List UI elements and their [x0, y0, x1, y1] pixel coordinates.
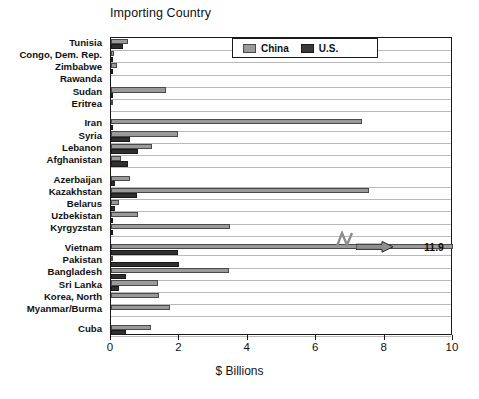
- legend-item-us: U.S.: [301, 43, 338, 54]
- bar-vietnam-us: [111, 250, 178, 255]
- axis-break-icon: [336, 231, 354, 247]
- bar-syria-china: [111, 131, 178, 136]
- y-label-vietnam: Vietnam: [65, 243, 102, 253]
- bar-afghanistan-china: [111, 156, 121, 161]
- legend-item-china: China: [243, 43, 289, 54]
- y-label-myanmar-burma: Myanmar/Burma: [27, 304, 102, 314]
- bar-sudan-china: [111, 87, 166, 92]
- y-label-bangladesh: Bangladesh: [48, 267, 102, 277]
- gridline: [111, 280, 451, 281]
- y-label-lebanon: Lebanon: [62, 143, 102, 153]
- plot-area: [110, 37, 452, 335]
- bar-uzbekistan-us: [111, 218, 113, 223]
- chart-root: Importing Country TunisiaCongo, Dem. Rep…: [0, 0, 479, 399]
- legend: ChinaU.S.: [232, 38, 378, 58]
- legend-swatch-china: [243, 44, 256, 53]
- x-tick-mark: [110, 335, 111, 340]
- bar-zimbabwe-china: [111, 63, 117, 68]
- x-tick-label: 0: [107, 341, 113, 353]
- bar-sudan-us: [111, 93, 113, 98]
- bar-kyrgyzstan-us: [111, 230, 113, 235]
- x-tick-label: 6: [312, 341, 318, 353]
- gridlines: [111, 38, 451, 334]
- bar-belarus-china: [111, 200, 119, 205]
- y-label-uzbekistan: Uzbekistan: [51, 211, 102, 221]
- gridline: [111, 236, 451, 237]
- bar-iran-us: [111, 125, 113, 130]
- bar-azerbaijan-china: [111, 176, 130, 181]
- bar-afghanistan-us: [111, 161, 128, 166]
- x-tick-label: 4: [244, 341, 250, 353]
- bar-lebanon-china: [111, 144, 152, 149]
- bar-eritrea-china: [111, 100, 113, 105]
- bar-korea-north-china: [111, 293, 159, 298]
- y-label-kazakhstan: Kazakhstan: [49, 187, 102, 197]
- gridline: [111, 75, 451, 76]
- gridline: [111, 111, 451, 112]
- bar-myanmar-burma-china: [111, 305, 170, 310]
- x-tick-mark: [315, 335, 316, 340]
- gridline: [111, 199, 451, 200]
- bar-syria-us: [111, 137, 130, 142]
- bar-kazakhstan-us: [111, 193, 137, 198]
- bar-tunisia-us: [111, 44, 123, 49]
- bar-congo-dem-rep--us: [111, 57, 113, 62]
- y-label-sudan: Sudan: [73, 87, 102, 97]
- gridline: [111, 211, 451, 212]
- legend-label-china: China: [261, 43, 289, 54]
- x-axis-ticks: 0246810: [0, 335, 479, 355]
- y-label-belarus: Belarus: [67, 199, 102, 209]
- chart-title: Importing Country: [110, 6, 211, 20]
- y-label-kyrgyzstan: Kyrgyzstan: [50, 223, 102, 233]
- bar-zimbabwe-us: [111, 69, 113, 74]
- bar-cuba-china: [111, 325, 151, 330]
- y-label-iran: Iran: [84, 118, 102, 128]
- y-label-korea-north: Korea, North: [44, 292, 102, 302]
- y-label-syria: Syria: [79, 131, 102, 141]
- y-label-zimbabwe: Zimbabwe: [55, 62, 102, 72]
- y-label-tunisia: Tunisia: [69, 38, 102, 48]
- bar-sri-lanka-us: [111, 286, 119, 291]
- bar-sri-lanka-china: [111, 280, 158, 285]
- bar-kyrgyzstan-china: [111, 224, 230, 229]
- bar-vietnam-china: [111, 244, 453, 249]
- y-label-congo-dem-rep-: Congo, Dem. Rep.: [19, 50, 102, 60]
- bar-iran-china: [111, 119, 362, 124]
- y-label-eritrea: Eritrea: [72, 99, 102, 109]
- bar-bangladesh-china: [111, 268, 229, 273]
- y-label-rawanda: Rawanda: [60, 74, 102, 84]
- x-tick-label: 8: [380, 341, 386, 353]
- bar-pakistan-china: [111, 256, 113, 261]
- y-label-afghanistan: Afghanistan: [47, 155, 102, 165]
- x-axis-title: $ Billions: [0, 364, 479, 378]
- x-tick-mark: [178, 335, 179, 340]
- bar-azerbaijan-us: [111, 181, 115, 186]
- y-label-pakistan: Pakistan: [63, 255, 102, 265]
- x-tick-label: 2: [175, 341, 181, 353]
- gridline: [111, 99, 451, 100]
- x-tick-label: 10: [446, 341, 459, 353]
- y-axis-labels: TunisiaCongo, Dem. Rep.ZimbabweRawandaSu…: [0, 37, 106, 335]
- gridline: [111, 143, 451, 144]
- overflow-value-label: 11.9: [424, 241, 444, 253]
- x-tick-mark: [384, 335, 385, 340]
- gridline: [111, 167, 451, 168]
- gridline: [111, 292, 451, 293]
- bar-pakistan-us: [111, 262, 179, 267]
- x-tick-mark: [452, 335, 453, 340]
- legend-swatch-us: [301, 44, 314, 53]
- bar-uzbekistan-china: [111, 212, 138, 217]
- y-label-azerbaijan: Azerbaijan: [53, 175, 102, 185]
- bar-bangladesh-us: [111, 274, 126, 279]
- bar-lebanon-us: [111, 149, 138, 154]
- overflow-arrow-icon: [356, 241, 394, 253]
- bar-tunisia-china: [111, 39, 128, 44]
- y-label-sri-lanka: Sri Lanka: [59, 280, 102, 290]
- x-tick-mark: [247, 335, 248, 340]
- legend-label-us: U.S.: [319, 43, 338, 54]
- bar-congo-dem-rep--china: [111, 51, 114, 56]
- bar-belarus-us: [111, 206, 115, 211]
- y-label-cuba: Cuba: [78, 324, 102, 334]
- gridline: [111, 255, 451, 256]
- bar-kazakhstan-china: [111, 188, 369, 193]
